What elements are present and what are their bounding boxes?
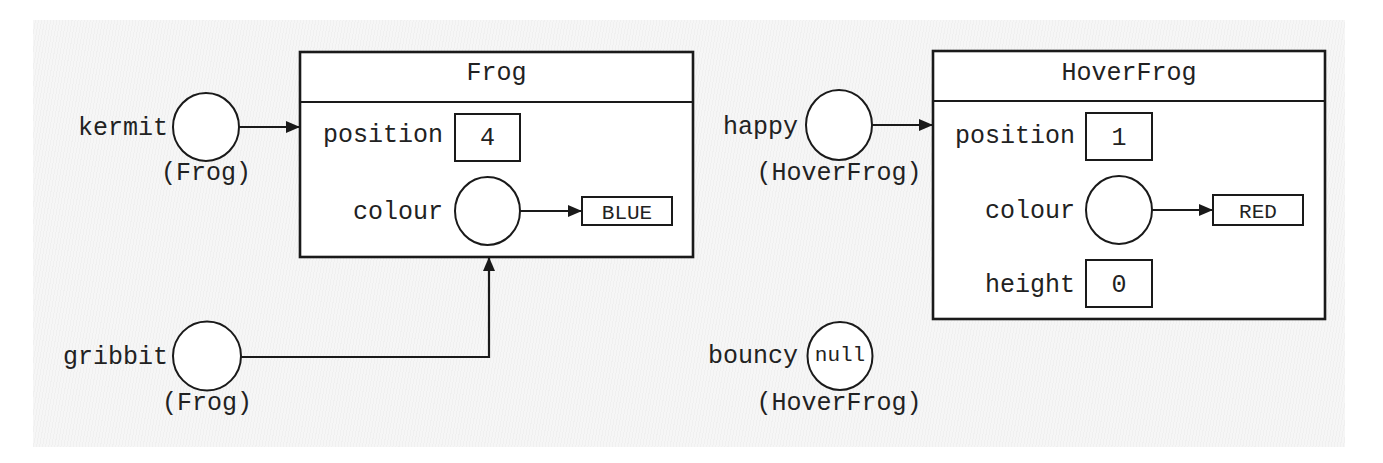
object-reference-diagram: Frog position 4 colour BLUE kermit (Frog… <box>0 0 1383 463</box>
hoverfrog-height-value: 0 <box>1111 271 1126 300</box>
happy-name: happy <box>723 113 798 142</box>
happy-reference-circle <box>806 90 872 160</box>
hoverfrog-class-name: HoverFrog <box>1061 59 1196 88</box>
hoverfrog-position-value: 1 <box>1111 124 1126 153</box>
frog-position-label: position <box>323 121 443 150</box>
frog-colour-reference-circle <box>455 177 520 245</box>
variable-gribbit: gribbit (Frog) <box>63 258 489 418</box>
frog-position-value: 4 <box>480 124 495 153</box>
hoverfrog-position-label: position <box>955 122 1075 151</box>
frog-object: Frog position 4 colour BLUE <box>300 52 693 257</box>
gribbit-reference-circle <box>173 322 241 391</box>
frog-colour-value: BLUE <box>602 202 652 225</box>
bouncy-type: (HoverFrog) <box>756 389 921 418</box>
hoverfrog-object: HoverFrog position 1 colour RED height 0 <box>933 51 1325 319</box>
hoverfrog-colour-value: RED <box>1239 201 1277 224</box>
variable-happy: happy (HoverFrog) <box>723 90 932 188</box>
kermit-reference-circle <box>173 93 239 161</box>
kermit-type: (Frog) <box>161 159 251 188</box>
bouncy-null-value: null <box>815 344 865 367</box>
frog-class-name: Frog <box>466 59 526 88</box>
kermit-name: kermit <box>78 114 168 143</box>
gribbit-type: (Frog) <box>162 389 252 418</box>
variable-bouncy: bouncy null (HoverFrog) <box>708 322 922 418</box>
hoverfrog-height-label: height <box>985 271 1075 300</box>
frog-colour-label: colour <box>353 198 443 227</box>
variable-kermit: kermit (Frog) <box>78 93 299 188</box>
happy-type: (HoverFrog) <box>756 159 921 188</box>
hoverfrog-colour-label: colour <box>985 197 1075 226</box>
hoverfrog-colour-reference-circle <box>1086 176 1152 244</box>
gribbit-name: gribbit <box>63 343 168 372</box>
bouncy-name: bouncy <box>708 342 798 371</box>
gribbit-to-frog-arrow <box>241 258 489 357</box>
